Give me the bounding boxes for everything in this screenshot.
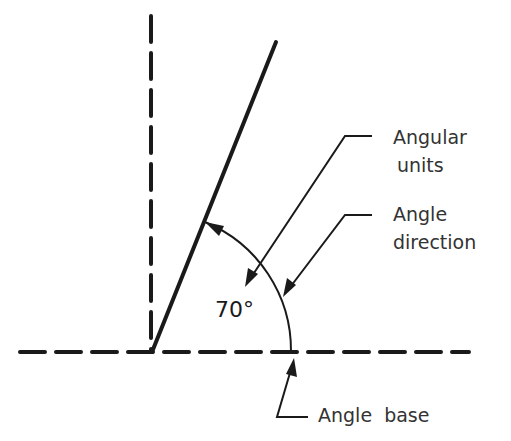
angular-units-label-line1: Angular [393, 126, 467, 148]
angled-line [152, 42, 276, 352]
angle-base-label: Angle base [318, 404, 429, 426]
angle-value-label: 70° [215, 297, 254, 322]
angle-base-arrowhead-icon [286, 358, 297, 377]
angular-units-label-line2: units [397, 154, 444, 176]
angle-arc [205, 222, 291, 352]
angular-units-leader [250, 136, 372, 279]
angle-direction-leader [288, 215, 372, 290]
arc-arrowhead-icon [205, 222, 224, 236]
angle-direction-label-line1: Angle [393, 203, 447, 225]
angle-diagram: 70° Angular units Angle direction Angle … [0, 0, 511, 441]
angle-direction-label-line2: direction [393, 231, 476, 253]
